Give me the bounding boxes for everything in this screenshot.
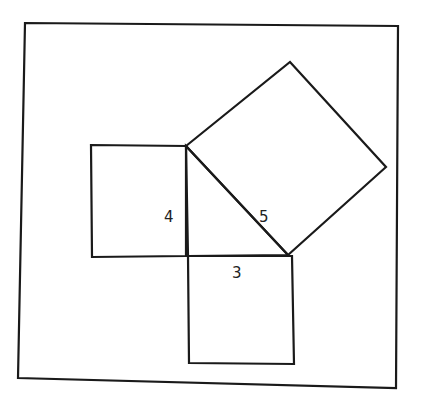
side-5-label: 5	[259, 208, 269, 226]
side-3-label: 3	[232, 264, 242, 282]
side-4-label: 4	[164, 208, 174, 226]
right-triangle	[186, 146, 288, 256]
pythagoras-diagram: 4 5 3	[0, 0, 425, 396]
outer-frame	[18, 23, 398, 388]
square-side-4	[91, 145, 186, 257]
square-hypotenuse-5	[186, 62, 386, 255]
